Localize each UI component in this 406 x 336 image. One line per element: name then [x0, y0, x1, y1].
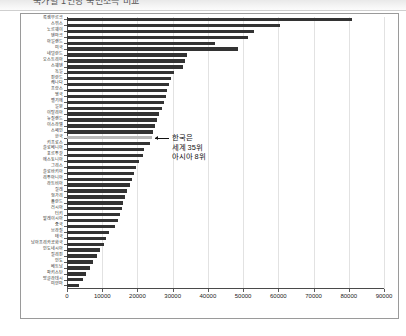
bar: [67, 243, 104, 246]
x-tick-mark: [173, 289, 174, 292]
gridline: [384, 17, 385, 289]
x-tick-label: 30000: [164, 293, 181, 299]
bar-row: 미얀마: [67, 283, 384, 289]
bar: [67, 166, 136, 169]
bar: [67, 160, 139, 163]
bar: [67, 30, 254, 33]
bar: [67, 148, 144, 151]
bar: [67, 71, 174, 74]
bar: [67, 89, 167, 92]
annotation-line-2: 세계 35위: [172, 143, 206, 153]
x-tick-label: 0: [65, 293, 68, 299]
bar: [67, 112, 159, 115]
x-tick-mark: [243, 289, 244, 292]
bar: [67, 266, 90, 269]
bar: [67, 95, 166, 98]
bar: [67, 101, 164, 104]
x-tick-mark: [278, 289, 279, 292]
x-tick-mark: [314, 289, 315, 292]
bar: [67, 278, 83, 281]
bar: [67, 142, 150, 145]
bar: [67, 65, 183, 68]
x-tick-label: 70000: [305, 293, 322, 299]
bar: [67, 207, 122, 210]
bar: [67, 124, 155, 127]
title-divider: [0, 10, 406, 11]
x-tick-label: 80000: [340, 293, 357, 299]
bar: [67, 42, 215, 45]
x-tick-mark: [208, 289, 209, 292]
cutoff-title-text: 국가별 1인당 국민소득 비교: [33, 0, 140, 7]
bar: [67, 172, 134, 175]
bar: [67, 237, 106, 240]
bar: [67, 24, 280, 27]
cutoff-title-band: 국가별 1인당 국민소득 비교: [0, 0, 406, 11]
chart-frame: 룩셈부르크스위스노르웨이덴마크아일랜드미국네덜란드오스트리아스웨덴독일핀란드캐나…: [20, 13, 399, 319]
bar: [67, 189, 127, 192]
bar: [67, 195, 125, 198]
bar: [67, 225, 115, 228]
bar: [67, 107, 162, 110]
bar: [67, 47, 238, 50]
bar: [67, 18, 352, 21]
x-tick-label: 20000: [129, 293, 146, 299]
bar: [67, 83, 169, 86]
bar: [67, 272, 86, 275]
y-axis-label: 미얀마: [51, 281, 63, 287]
x-tick-label: 10000: [94, 293, 111, 299]
annotation-line-1: 한국은: [172, 133, 206, 143]
x-tick-label: 60000: [270, 293, 287, 299]
bar: [67, 284, 79, 287]
bar: [67, 178, 132, 181]
bar: [67, 201, 123, 204]
bar: [67, 77, 171, 80]
x-tick-mark: [137, 289, 138, 292]
bar: [67, 183, 130, 186]
x-tick-mark: [102, 289, 103, 292]
bar: [67, 254, 97, 257]
x-tick-mark: [67, 289, 68, 292]
x-tick-mark: [384, 289, 385, 292]
bar: [67, 118, 157, 121]
bar: [67, 260, 93, 263]
annotation-text: 한국은 세계 35위 아시아 8위: [172, 133, 206, 162]
bar: [67, 59, 185, 62]
bar: [67, 36, 248, 39]
bar: [67, 136, 152, 139]
bar: [67, 213, 120, 216]
x-tick-label: 50000: [235, 293, 252, 299]
bar: [67, 248, 100, 251]
annotation-line-3: 아시아 8위: [172, 152, 206, 162]
x-tick-label: 40000: [200, 293, 217, 299]
bar: [67, 130, 153, 133]
bar: [67, 219, 118, 222]
bar: [67, 154, 143, 157]
x-tick-label: 90000: [376, 293, 393, 299]
chart-screenshot: 국가별 1인당 국민소득 비교 룩셈부르크스위스노르웨이덴마크아일랜드미국네덜란…: [0, 0, 406, 336]
bar: [67, 53, 187, 56]
x-tick-mark: [349, 289, 350, 292]
plot-area: 룩셈부르크스위스노르웨이덴마크아일랜드미국네덜란드오스트리아스웨덴독일핀란드캐나…: [67, 17, 384, 289]
bar: [67, 231, 109, 234]
